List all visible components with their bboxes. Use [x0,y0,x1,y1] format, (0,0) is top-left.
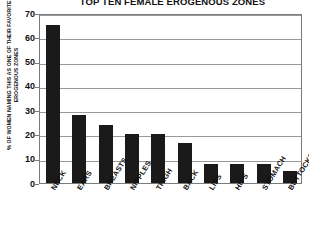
y-axis-tick-mark [35,160,39,161]
y-axis-tick-mark [35,111,39,112]
bar-chart: TOP TEN FEMALE EROGENOUS ZONES % OF WOME… [0,0,309,240]
y-axis-tick-label: 70 [14,10,35,19]
y-axis-tick-mark [35,14,39,15]
x-axis-tick-labels: NECKEARSBREASTSNIPPLESTHIGHBACKLIPSHIPSS… [0,187,309,240]
y-axis-tick-mark [35,184,39,185]
y-axis-tick-label: 40 [14,82,35,91]
y-axis-tick-label: 10 [14,155,35,164]
y-axis-tick-mark [35,63,39,64]
y-axis-tick-label: 20 [14,131,35,140]
y-axis-tick-label: 60 [14,34,35,43]
y-axis-tick-mark [35,38,39,39]
y-axis-tick-mark [35,135,39,136]
y-axis-tick-label: 30 [14,107,35,116]
y-axis-tick-label: 50 [14,58,35,67]
y-axis-tick-mark [35,87,39,88]
